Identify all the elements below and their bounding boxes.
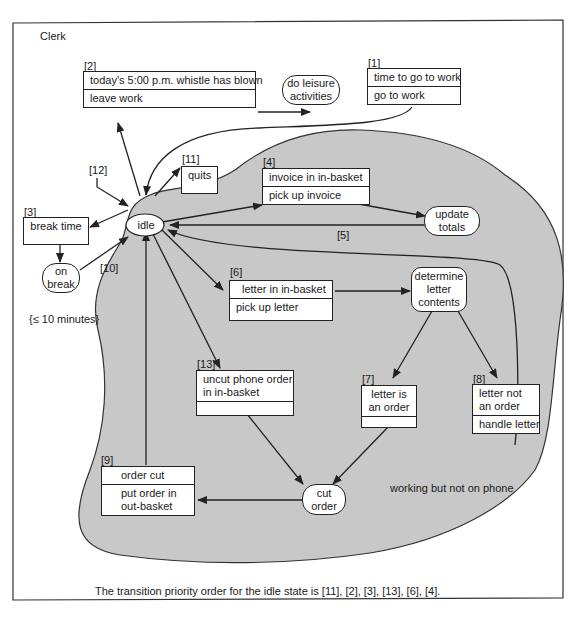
transition-6: letter in in-basket pick up letter <box>229 280 333 321</box>
transition-13-event: uncut phone orderin in-basket <box>197 371 293 402</box>
transition-4: invoice in in-basket pick up invoice <box>262 168 370 205</box>
transition-11: quits <box>181 166 218 194</box>
transition-13-action <box>197 402 293 415</box>
transition-10-id: [10] <box>100 262 118 274</box>
transition-6-action: pick up letter <box>230 299 332 320</box>
transition-11-id: [11] <box>182 153 200 165</box>
transition-2-event: today's 5:00 p.m. whistle has blown <box>84 72 255 90</box>
transition-1-action: go to work <box>368 87 460 104</box>
transition-9-event: order cut <box>102 467 194 485</box>
transition-7-id: [7] <box>362 373 374 385</box>
transition-7: letter isan order <box>361 385 417 428</box>
state-do-leisure-activities: do leisureactivities <box>282 75 340 105</box>
transition-1: time to go to work go to work <box>367 68 461 105</box>
transition-8: letter notan order handle letter <box>472 384 540 434</box>
transition-5-id: [5] <box>337 229 349 241</box>
transition-8-event: letter notan order <box>473 385 539 416</box>
state-idle-label: idle <box>136 219 156 232</box>
transition-3: break time <box>23 217 89 245</box>
transition-6-event: letter in in-basket <box>230 281 332 299</box>
transition-6-id: [6] <box>230 266 242 278</box>
transition-7-action <box>362 417 416 427</box>
transition-2: today's 5:00 p.m. whistle has blown leav… <box>83 71 256 108</box>
transition-11-event: quits <box>182 167 217 184</box>
transition-13-id: [13] <box>197 358 215 370</box>
transition-7-event: letter isan order <box>362 386 416 417</box>
transition-1-event: time to go to work <box>368 69 460 87</box>
state-update-totals: updatetotals <box>424 206 480 236</box>
transition-4-id: [4] <box>263 156 275 168</box>
break-duration-note: {≤ 10 minutes} <box>29 313 99 326</box>
state-on-break: onbreak <box>42 263 80 293</box>
transition-4-action: pick up invoice <box>263 187 369 204</box>
diagram-title: Clerk <box>40 30 66 43</box>
region-label: working but not on phone <box>390 482 514 495</box>
transition-13: uncut phone orderin in-basket <box>196 370 294 416</box>
transition-2-action: leave work <box>84 90 255 107</box>
transition-3-event: break time <box>24 218 88 235</box>
transition-9-action: put order inout-basket <box>102 485 194 515</box>
transition-9: order cut put order inout-basket <box>101 466 195 516</box>
state-cut-order: cutorder <box>302 484 346 515</box>
transition-8-action: handle letter <box>473 416 539 433</box>
state-determine-letter-contents: determinelettercontents <box>411 267 467 312</box>
transition-9-id: [9] <box>101 454 113 466</box>
transition-4-event: invoice in in-basket <box>263 169 369 187</box>
transition-12-id: [12] <box>89 164 107 176</box>
diagram-caption: The transition priority order for the id… <box>95 585 440 598</box>
